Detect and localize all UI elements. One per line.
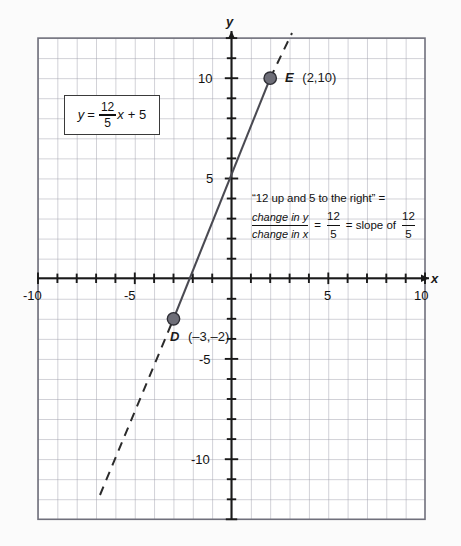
slope-result-fraction: 12 5 xyxy=(402,210,415,241)
slope-value-numerator: 12 xyxy=(327,210,340,223)
y-tick-label--5: -5 xyxy=(199,353,211,366)
slope-value-fraction: 12 5 xyxy=(327,210,340,241)
equation-fraction-numerator: 12 xyxy=(99,101,116,114)
point-D-name: D xyxy=(170,329,179,344)
slope-result-denominator: 5 xyxy=(405,228,411,241)
y-axis-label: y xyxy=(226,15,233,28)
y-tick-label-10: 10 xyxy=(198,72,212,85)
equation-fraction-denominator: 5 xyxy=(102,117,113,130)
x-tick-label-5: 5 xyxy=(324,289,331,302)
point-E-dot xyxy=(264,72,276,84)
slope-value-denominator: 5 xyxy=(330,228,336,241)
equation-constant: + 5 xyxy=(128,107,146,122)
point-D-coords: (–3,–2) xyxy=(188,329,229,344)
x-tick-label--5: -5 xyxy=(124,289,136,302)
graph-canvas xyxy=(0,0,461,546)
equation-fraction: 12 5 xyxy=(99,101,116,130)
equation-variable: x xyxy=(117,107,124,122)
change-ratio-bar xyxy=(252,225,308,226)
coordinate-plane-figure: x y -10 -5 5 10 10 5 -5 -10 y = 12 5 x +… xyxy=(0,0,461,546)
change-ratio-denominator: change in x xyxy=(252,228,308,241)
slope-result-bar xyxy=(402,225,415,226)
slope-formula: change in y change in x = 12 5 = slope o… xyxy=(252,210,457,241)
point-E-coords: (2,10) xyxy=(302,70,336,85)
slope-quote: “12 up and 5 to the right” = xyxy=(252,192,457,204)
point-D-label: D (–3,–2) xyxy=(170,330,229,343)
change-ratio: change in y change in x xyxy=(252,211,308,241)
slope-value-bar xyxy=(327,225,340,226)
y-tick-label-5: 5 xyxy=(206,172,213,185)
x-axis-label: x xyxy=(431,272,438,285)
equation-equals: = xyxy=(87,107,95,122)
x-tick-label-10: 10 xyxy=(414,289,428,302)
slope-equals-2: = slope of xyxy=(346,219,396,231)
equation-expression: y = 12 5 x + 5 xyxy=(78,101,146,130)
equation-lhs: y xyxy=(78,107,85,122)
slope-annotation: “12 up and 5 to the right” = change in y… xyxy=(252,192,457,241)
y-tick-label--10: -10 xyxy=(191,453,210,466)
slope-result-numerator: 12 xyxy=(402,210,415,223)
point-E-name: E xyxy=(285,70,294,85)
x-tick-label--10: -10 xyxy=(23,289,42,302)
slope-equals-1: = xyxy=(314,219,321,231)
point-D-dot xyxy=(167,313,179,325)
change-ratio-numerator: change in y xyxy=(252,211,308,224)
point-E-label: E (2,10) xyxy=(285,71,336,84)
equation-box: y = 12 5 x + 5 xyxy=(64,95,160,135)
